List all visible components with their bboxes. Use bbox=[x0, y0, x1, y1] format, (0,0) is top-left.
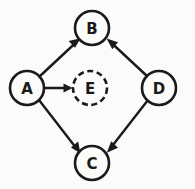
edge-d-to-b bbox=[107, 38, 148, 76]
edge-a-to-b-line bbox=[40, 42, 77, 77]
node-c[interactable]: C bbox=[75, 146, 109, 180]
node-b-label: B bbox=[86, 20, 97, 38]
edge-a-to-e bbox=[45, 84, 73, 93]
node-e-label: E bbox=[85, 80, 95, 98]
node-c-label: C bbox=[86, 155, 97, 173]
edge-a-to-c bbox=[39, 100, 81, 154]
node-d-label: D bbox=[153, 80, 165, 98]
node-e[interactable]: E bbox=[73, 71, 107, 105]
node-d[interactable]: D bbox=[142, 71, 176, 105]
node-b[interactable]: B bbox=[75, 11, 109, 45]
node-layer: A B E D C bbox=[10, 11, 176, 180]
edge-d-to-c-line bbox=[111, 100, 148, 148]
graph-svg: A B E D C bbox=[0, 0, 195, 189]
node-a-label: A bbox=[21, 80, 33, 98]
node-a[interactable]: A bbox=[10, 71, 44, 105]
edge-d-to-b-line bbox=[111, 43, 148, 77]
edge-a-to-e-arrowhead bbox=[64, 84, 73, 93]
edge-a-to-b bbox=[40, 38, 81, 76]
edge-d-to-c-arrowhead bbox=[107, 141, 118, 153]
edge-d-to-c bbox=[107, 100, 148, 153]
edge-a-to-c-line bbox=[39, 100, 77, 149]
diagram-canvas: A B E D C bbox=[0, 0, 195, 189]
